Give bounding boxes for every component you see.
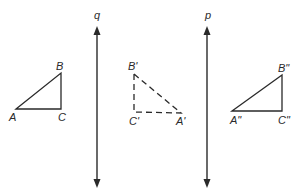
triangle-a-prime-b-prime-c-prime: B' C' A': [128, 60, 186, 127]
arrow-up-icon: [204, 26, 211, 35]
arrow-down-icon: [204, 179, 211, 188]
line-q: q: [94, 9, 102, 188]
vertex-label-a-prime: A': [175, 115, 186, 127]
vertex-label-b: B: [56, 60, 63, 72]
arrow-down-icon: [94, 179, 101, 188]
line-q-label: q: [94, 9, 101, 21]
reflection-diagram: q p B A C B' C' A' B" A" C": [0, 0, 299, 192]
vertex-label-c-double-prime: C": [278, 114, 291, 126]
line-p-label: p: [204, 9, 211, 21]
triangle-abc: B A C: [8, 60, 66, 123]
vertex-label-a-double-prime: A": [229, 114, 242, 126]
arrow-up-icon: [94, 26, 101, 35]
vertex-label-c-prime: C': [129, 115, 140, 127]
line-p: p: [204, 9, 212, 188]
vertex-label-b-double-prime: B": [278, 62, 290, 74]
vertex-label-a: A: [8, 111, 16, 123]
vertex-label-b-prime: B': [128, 60, 138, 72]
vertex-label-c: C: [58, 111, 66, 123]
triangle-a-double-prime-b-double-prime-c-double-prime: B" A" C": [229, 62, 291, 126]
